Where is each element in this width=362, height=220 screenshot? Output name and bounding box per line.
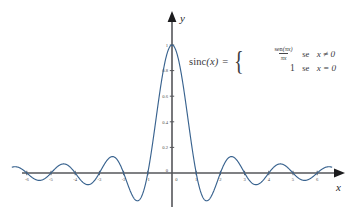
x-tick-label: 3 [243,177,246,182]
x-tick-label: -3 [97,177,102,182]
plot-canvas: y x -6-5-4-3-2-10123456 0.20.40.60.810 [0,0,362,220]
y-tick-label-zero: 0 [166,168,169,173]
formula-cases: sen(πx) πx se x ≠ 0 1 se x = 0 [247,47,336,75]
numerator-argument: (πx) [283,45,293,52]
sinc-function-figure: y x -6-5-4-3-2-10123456 0.20.40.60.810 s… [0,0,362,220]
y-axis-arrow [168,11,177,22]
formula-equals: = [222,56,228,67]
formula-case-row-2: 1 se x = 0 [247,61,336,75]
x-tick-label: -5 [49,177,54,182]
y-tick-label: 0.2 [162,145,168,150]
y-tick-label: 1 [166,43,169,48]
x-tick-label: -6 [25,177,30,182]
formula-case2-word: se [295,63,317,73]
y-tick-label: 0.6 [162,94,168,99]
formula-case1-word: se [295,49,317,59]
fraction-numerator: sen(πx) [272,46,294,53]
formula-function-name: sinc [189,56,206,67]
formula-case2-value: 1 [247,63,295,73]
formula-lhs: sinc(x) [189,56,218,67]
x-tick-label: -4 [73,177,78,182]
x-axis-arrow [334,169,345,178]
x-axis-label: x [335,181,341,193]
x-tick-label: 0 [175,177,178,182]
formula-case1-condition: x ≠ 0 [317,49,335,59]
x-tick-label: 6 [316,177,319,182]
x-tick-label: 5 [292,177,295,182]
y-tick-label: 0.4 [162,120,168,125]
formula-case2-condition: x = 0 [317,63,336,73]
formula-case1-value: sen(πx) πx [247,46,295,62]
formula-case-row-1: sen(πx) πx se x ≠ 0 [247,47,336,61]
fraction: sen(πx) πx [272,46,294,62]
x-tick-label: 4 [268,177,271,182]
sinc-formula: sinc(x) = { sen(πx) πx se x ≠ 0 1 se x =… [189,47,336,75]
numerator-function: sen [274,45,282,52]
formula-argument: (x) [206,56,218,67]
x-tick-label: 2 [219,177,222,182]
y-axis-label: y [179,12,185,24]
